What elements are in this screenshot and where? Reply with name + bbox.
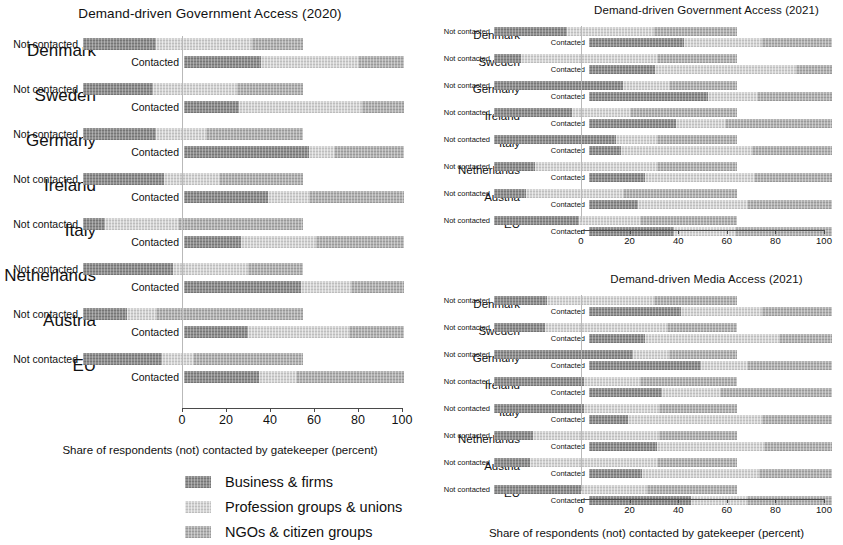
stacked-bar <box>184 326 404 338</box>
contact-status-label: Contacted <box>525 173 589 182</box>
stacked-bar <box>494 296 737 305</box>
business-segment <box>83 128 156 140</box>
bar-track <box>589 200 832 209</box>
legend-item: Profession groups & unions <box>185 499 402 515</box>
bar-track <box>494 162 737 171</box>
bar-track <box>83 308 303 320</box>
ngo-segment <box>669 350 737 359</box>
profession-segment <box>633 350 669 359</box>
country-group: NetherlandsNot contactedContacted <box>0 261 420 294</box>
business-segment <box>83 263 173 275</box>
profession-segment <box>691 496 747 505</box>
x-axis-tick <box>678 499 679 503</box>
bar-track <box>589 65 832 74</box>
profession-segment <box>526 189 623 198</box>
country-group: DenmarkNot contactedContacted <box>430 295 843 316</box>
stacked-bar <box>589 38 832 47</box>
ngo-segment <box>779 334 832 343</box>
bar-track <box>494 458 737 467</box>
y-axis-line <box>182 36 183 408</box>
business-segment <box>589 415 628 424</box>
profession-segment <box>701 361 747 370</box>
bar-row: SwedenNot contacted <box>430 322 843 332</box>
legend-label: Business & firms <box>225 474 333 490</box>
country-group: SwedenNot contactedContacted <box>430 322 843 343</box>
bar-track <box>589 92 832 101</box>
stacked-bar <box>83 128 303 140</box>
bar-track <box>83 173 303 185</box>
profession-segment <box>657 442 764 451</box>
business-segment <box>589 200 638 209</box>
bar-row: ItalyNot contacted <box>0 216 420 231</box>
ngo-segment <box>206 128 303 140</box>
ngo-segment <box>796 65 832 74</box>
bar-track <box>494 216 737 225</box>
contact-status-label: Contacted <box>525 361 589 370</box>
profession-segment <box>530 458 656 467</box>
business-segment <box>494 458 530 467</box>
panel-title: Demand-driven Government Access (2021) <box>570 4 843 16</box>
ngo-segment <box>747 200 832 209</box>
business-segment <box>589 469 642 478</box>
legend-item: Business & firms <box>185 474 402 490</box>
country-group: ItalyNot contactedContacted <box>430 403 843 424</box>
business-segment <box>589 38 684 47</box>
x-axis-tick <box>824 230 825 234</box>
bar-track <box>83 353 303 365</box>
bar-track <box>494 108 737 117</box>
ngo-segment <box>351 281 404 293</box>
business-segment <box>494 485 581 494</box>
chart-panel-government-access-2021: Demand-driven Government Access (2021) D… <box>430 0 843 265</box>
country-group: AustriaNot contactedContacted <box>430 457 843 478</box>
stacked-bar <box>184 101 404 113</box>
profession-segment <box>239 101 362 113</box>
bar-track <box>494 135 737 144</box>
profession-segment <box>623 81 669 90</box>
stacked-bar <box>494 323 737 332</box>
y-axis-line <box>581 295 582 491</box>
x-axis-tick <box>775 230 776 234</box>
country-group: EUNot contactedContacted <box>430 484 843 505</box>
contact-status-label: Contacted <box>101 371 184 383</box>
x-axis-tick <box>678 230 679 234</box>
x-axis-tick <box>581 230 582 234</box>
ngo-segment <box>657 458 737 467</box>
bar-track <box>589 469 832 478</box>
bar-row: IrelandNot contacted <box>430 107 843 117</box>
profession-segment <box>628 415 762 424</box>
x-axis-tick <box>727 499 728 503</box>
x-axis-tick <box>630 230 631 234</box>
stacked-bar <box>494 216 737 225</box>
contact-status-label: Contacted <box>525 92 589 101</box>
bar-row: AustriaNot contacted <box>430 188 843 198</box>
bar-row: NetherlandsNot contacted <box>430 161 843 171</box>
bar-track <box>494 189 737 198</box>
stacked-bar <box>184 281 404 293</box>
bar-track <box>494 296 737 305</box>
business-segment <box>184 101 239 113</box>
profession-segment <box>681 307 761 316</box>
x-axis-tick <box>581 499 582 503</box>
contact-status-label: Contacted <box>525 65 589 74</box>
ngo-swatch <box>185 526 211 538</box>
stacked-bar <box>589 92 832 101</box>
stacked-bar <box>83 308 303 320</box>
contact-status-label: Contacted <box>525 146 589 155</box>
ngo-segment <box>623 189 737 198</box>
chart-rows: DenmarkNot contactedContactedSwedenNot c… <box>430 26 843 242</box>
x-axis-tick-label: 100 <box>816 235 832 246</box>
business-segment <box>494 189 526 198</box>
x-axis-tick <box>314 408 315 412</box>
ngo-segment <box>747 361 832 370</box>
bar-row: EUNot contacted <box>430 215 843 225</box>
stacked-bar <box>494 135 737 144</box>
country-group: IrelandNot contactedContacted <box>430 376 843 397</box>
bar-track <box>184 191 404 203</box>
country-group: DenmarkNot contactedContacted <box>430 26 843 47</box>
profession-segment <box>684 38 762 47</box>
x-axis-caption: Share of respondents (not) contacted by … <box>20 444 420 456</box>
bar-row: DenmarkNot contacted <box>0 36 420 51</box>
stacked-bar <box>184 56 404 68</box>
stacked-bar <box>589 65 832 74</box>
stacked-bar <box>589 388 832 397</box>
